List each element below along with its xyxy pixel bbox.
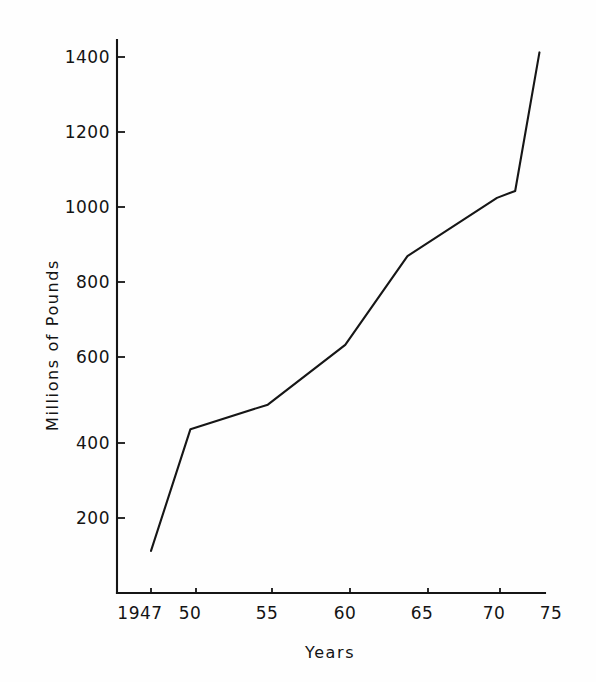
y-tick-label-1200: 1200 (65, 122, 110, 142)
x-tick-label-55: 55 (256, 603, 279, 623)
y-tick-label-400: 400 (76, 433, 110, 453)
y-tick-label-600: 600 (76, 347, 110, 367)
y-axis-ticks (117, 57, 125, 518)
x-tick-label-60: 60 (334, 603, 357, 623)
y-axis-title: Millions of Pounds (43, 259, 62, 431)
x-axis-title: Years (304, 643, 355, 662)
x-axis-tick-labels: 1947 50 55 60 65 70 75 (117, 603, 562, 623)
data-series-line (151, 52, 539, 550)
x-tick-label-75: 75 (540, 603, 563, 623)
x-tick-label-70: 70 (483, 603, 506, 623)
x-tick-label-1947: 1947 (117, 603, 162, 623)
line-chart-plot: 1400 1200 1000 800 600 400 200 1947 50 5… (0, 0, 596, 682)
y-axis-tick-labels: 1400 1200 1000 800 600 400 200 (65, 47, 110, 528)
y-tick-label-1000: 1000 (65, 197, 110, 217)
y-tick-label-200: 200 (76, 508, 110, 528)
x-tick-label-65: 65 (411, 603, 434, 623)
chart-figure: 1400 1200 1000 800 600 400 200 1947 50 5… (0, 0, 596, 682)
y-tick-label-800: 800 (76, 272, 110, 292)
x-tick-label-50: 50 (179, 603, 202, 623)
y-tick-label-1400: 1400 (65, 47, 110, 67)
